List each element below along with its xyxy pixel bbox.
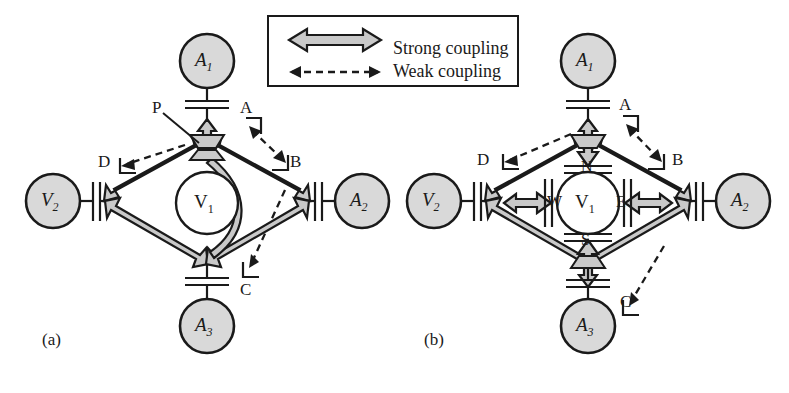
- port-c-label-a: C: [240, 280, 251, 300]
- legend-strong-label: Strong coupling: [393, 38, 509, 59]
- node-v2-label: V2: [41, 189, 59, 215]
- plate-w-label: W: [547, 193, 562, 211]
- node-v1-label-a: V1: [194, 191, 214, 217]
- figure-canvas: Strong coupling Weak coupling A1 V2 A2 A…: [0, 0, 789, 393]
- weak-coupling-a-d-b: [503, 134, 571, 169]
- plate-s-label: S: [581, 231, 590, 249]
- node-b-a3-label: A3: [576, 314, 594, 340]
- port-p-label: P: [152, 98, 161, 118]
- node-a3-label: A3: [195, 314, 213, 340]
- panel-b-label: (b): [424, 330, 444, 350]
- node-b-a2-label: A2: [731, 189, 749, 215]
- node-b-v2-label: V2: [422, 189, 440, 215]
- port-a-label-a: A: [240, 98, 252, 118]
- port-c-label-b: C: [620, 292, 631, 312]
- node-b-a1-label: A1: [576, 49, 594, 75]
- p-pointer-line: [163, 113, 199, 143]
- port-d-label-b: D: [477, 150, 489, 170]
- node-v1-label-b: V1: [575, 191, 595, 217]
- port-a-label-b: A: [619, 95, 631, 115]
- legend-weak-label: Weak coupling: [393, 61, 501, 82]
- plate-n-label: N: [581, 158, 593, 176]
- port-b-label-a: B: [290, 152, 301, 172]
- port-d-label-a: D: [98, 152, 110, 172]
- node-a2-label: A2: [350, 189, 368, 215]
- node-a1-label: A1: [195, 49, 213, 75]
- port-b-label-b: B: [672, 150, 683, 170]
- panel-a-label: (a): [42, 330, 61, 350]
- plate-e-label: E: [616, 193, 626, 211]
